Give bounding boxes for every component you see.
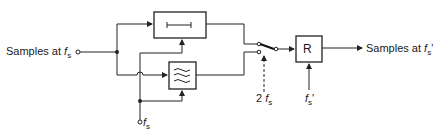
clock-label: fs [143, 116, 150, 130]
switch-rate-label: 2 fs [256, 92, 272, 106]
input-label: Samples at fs [6, 45, 71, 59]
output-label: Samples at fs' [366, 42, 433, 56]
block-diagram: Samples at fs fs R 2 fs fs' Samples at f… [0, 0, 433, 135]
resampler-label: R [303, 43, 312, 55]
diagram-lines [0, 0, 433, 135]
resampler-clock-label: fs' [305, 92, 314, 106]
